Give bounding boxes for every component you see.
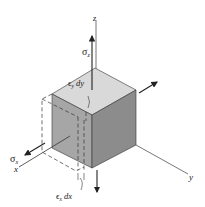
y-axis bbox=[136, 145, 188, 174]
eps-y-dy-label: ϵy dy bbox=[68, 78, 84, 89]
sigma-x-label: σx bbox=[10, 153, 18, 165]
x-axis-label: x bbox=[13, 164, 18, 174]
eps-x-dx-label: ϵx dx bbox=[56, 191, 72, 202]
sigma-y-arrow bbox=[139, 82, 157, 93]
sigma-z-label: σz bbox=[82, 46, 90, 58]
y-axis-label: y bbox=[188, 172, 193, 182]
stress-element-diagram: z y x σz σx ϵy dy ϵx dx bbox=[0, 0, 205, 207]
